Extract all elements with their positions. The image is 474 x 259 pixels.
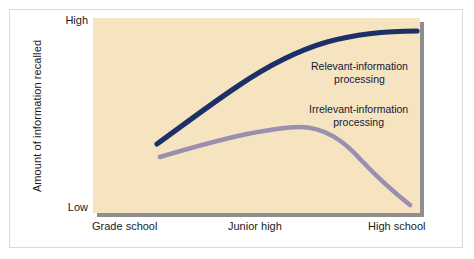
y-axis-tick-low: Low — [28, 201, 88, 213]
series-label-irrelevant: Irrelevant-information processing — [309, 103, 408, 129]
y-axis-tick-high: High — [28, 14, 88, 26]
x-axis-tick-junior-high: Junior high — [228, 220, 282, 232]
figure-container: Amount of information recalled High Low … — [0, 0, 474, 259]
series-label-relevant: Relevant-information processing — [311, 60, 408, 86]
series-label-relevant-line1: Relevant-information — [311, 60, 408, 73]
series-label-irrelevant-line2: processing — [309, 116, 408, 129]
series-label-relevant-line2: processing — [311, 73, 408, 86]
y-axis-title: Amount of information recalled — [31, 16, 43, 216]
x-axis-tick-high-school: High school — [368, 220, 425, 232]
x-axis-tick-grade-school: Grade school — [92, 220, 157, 232]
series-label-irrelevant-line1: Irrelevant-information — [309, 103, 408, 116]
